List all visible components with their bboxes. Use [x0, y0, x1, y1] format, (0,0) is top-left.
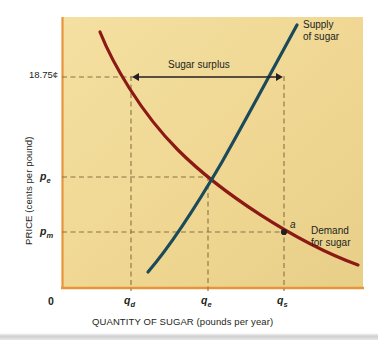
- point-a-marker: [281, 229, 287, 235]
- supply-curve-label-line1: Supply: [303, 19, 334, 31]
- y-tick-pm-sub: m: [46, 231, 53, 240]
- supply-curve-label-line2: of sugar: [303, 31, 339, 43]
- supply-demand-chart-figure: 18.75¢ pe pm PRICE (cents per pound) 0 q…: [0, 0, 378, 340]
- x-tick-qd: qd: [124, 294, 135, 310]
- y-tick-pm: pm: [40, 225, 53, 241]
- y-tick-price-ceiling: 18.75¢: [2, 70, 58, 81]
- y-tick-pe-sub: e: [46, 176, 50, 185]
- x-axis-title: QUANTITY OF SUGAR (pounds per year): [92, 317, 273, 328]
- demand-curve-label-line1: Demand: [311, 225, 349, 237]
- x-tick-qs: qs: [277, 294, 288, 310]
- chart-canvas: [0, 0, 378, 340]
- y-axis-title: PRICE (cents per pound): [24, 137, 35, 245]
- point-a-label: a: [290, 219, 296, 231]
- page-edge-strip: [0, 333, 378, 340]
- origin-label: 0: [48, 295, 54, 307]
- y-tick-pe: pe: [40, 170, 51, 186]
- x-tick-qe: qe: [201, 294, 212, 310]
- x-tick-qs-sub: s: [283, 300, 287, 309]
- sugar-surplus-label: Sugar surplus: [168, 59, 230, 71]
- x-tick-qd-sub: d: [130, 300, 135, 309]
- demand-curve-label-line2: for sugar: [311, 237, 350, 249]
- x-tick-qe-sub: e: [207, 300, 211, 309]
